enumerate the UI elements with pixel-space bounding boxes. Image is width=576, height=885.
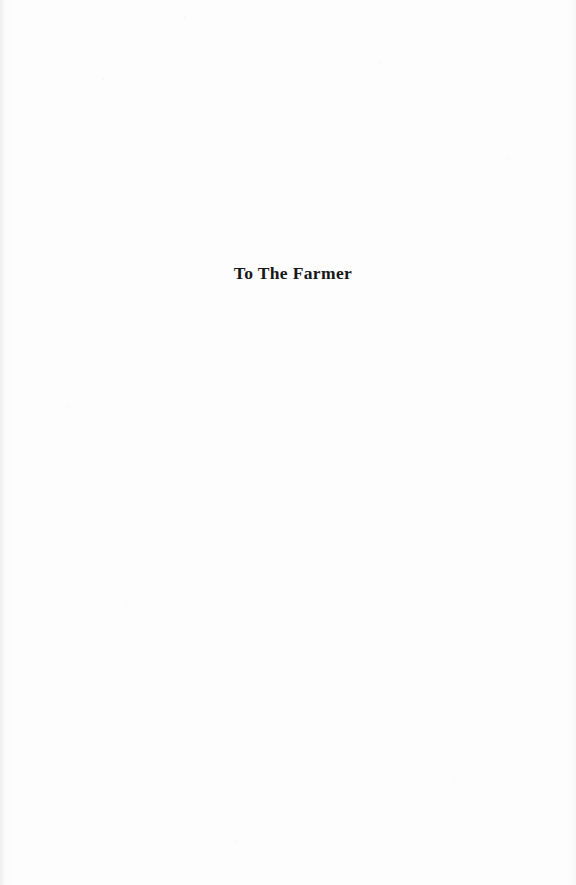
scan-speckle-overlay: [0, 0, 576, 885]
scanned-page: To The Farmer: [0, 0, 576, 885]
scan-grain-overlay: [0, 0, 576, 885]
dedication-text: To The Farmer: [234, 262, 352, 284]
dedication-block: To The Farmer: [0, 262, 576, 284]
